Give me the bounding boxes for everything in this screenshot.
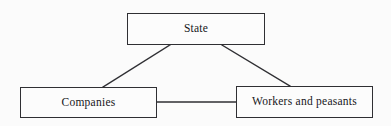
node-workers-label: Workers and peasants	[252, 96, 357, 108]
edge-state-companies	[103, 45, 170, 87]
node-state[interactable]: State	[127, 13, 265, 45]
node-workers[interactable]: Workers and peasants	[236, 86, 373, 118]
diagram-canvas: State Companies Workers and peasants	[0, 0, 391, 126]
edge-state-workers	[222, 45, 290, 86]
node-companies[interactable]: Companies	[20, 87, 157, 118]
node-companies-label: Companies	[62, 97, 116, 109]
node-state-label: State	[184, 23, 208, 35]
